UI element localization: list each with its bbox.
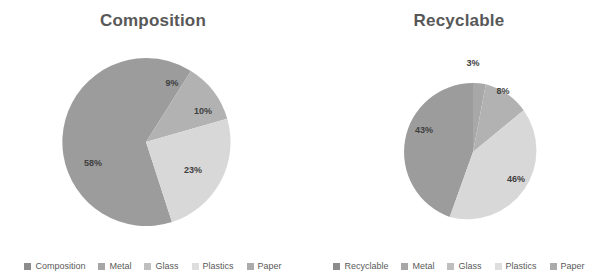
legend-swatch-icon [247,263,254,270]
legend-item-plastics[interactable]: Plastics [495,262,537,271]
chart-panel-recyclable: Recyclable 3% 8% 46% 43% Recyclable [306,0,612,279]
legend-item-glass[interactable]: Glass [144,262,178,271]
pie-label-composition-58: 58% [84,158,102,168]
pie-label-recyclable-3: 3% [466,58,479,68]
pie-label-composition-9: 9% [165,78,178,88]
legend-swatch-icon [401,263,408,270]
legend-label: Recyclable [344,262,388,271]
legend-label: Metal [109,262,131,271]
legend-label: Composition [35,262,85,271]
legend-swatch-icon [333,263,340,270]
legend-label: Plastics [506,262,537,271]
legend-item-paper[interactable]: Paper [247,262,282,271]
legend-label: Paper [561,262,585,271]
pie-svg-composition: 9% 10% 23% 58% [0,0,306,240]
legend-label: Glass [155,262,178,271]
legend-label: Glass [458,262,481,271]
pie-chart-composition: 9% 10% 23% 58% [0,0,306,240]
pie-label-recyclable-8: 8% [496,86,509,96]
legend-label: Plastics [203,262,234,271]
pie-svg-recyclable: 3% 8% 46% 43% [306,0,612,240]
legend-swatch-icon [98,263,105,270]
pie-label-composition-23: 23% [184,165,202,175]
legend-swatch-icon [550,263,557,270]
legend-swatch-icon [495,263,502,270]
legend-item-metal[interactable]: Metal [98,262,131,271]
pie-label-recyclable-43: 43% [415,125,433,135]
legend-recyclable: Recyclable Metal Glass Plastics Paper [306,262,612,271]
legend-item-glass[interactable]: Glass [447,262,481,271]
figure-canvas: Composition 9% 10% 23% 58% Composition [0,0,612,279]
chart-panel-composition: Composition 9% 10% 23% 58% Composition [0,0,306,279]
legend-item-plastics[interactable]: Plastics [192,262,234,271]
legend-composition: Composition Metal Glass Plastics Paper [0,262,306,271]
legend-swatch-icon [24,263,31,270]
legend-label: Paper [258,262,282,271]
legend-swatch-icon [144,263,151,270]
pie-label-composition-10: 10% [194,106,212,116]
legend-swatch-icon [192,263,199,270]
legend-item-paper[interactable]: Paper [550,262,585,271]
legend-item-recyclable[interactable]: Recyclable [333,262,388,271]
pie-label-recyclable-46: 46% [507,174,525,184]
legend-item-metal[interactable]: Metal [401,262,434,271]
legend-swatch-icon [447,263,454,270]
legend-item-composition[interactable]: Composition [24,262,85,271]
pie-chart-recyclable: 3% 8% 46% 43% [306,0,612,240]
legend-label: Metal [412,262,434,271]
